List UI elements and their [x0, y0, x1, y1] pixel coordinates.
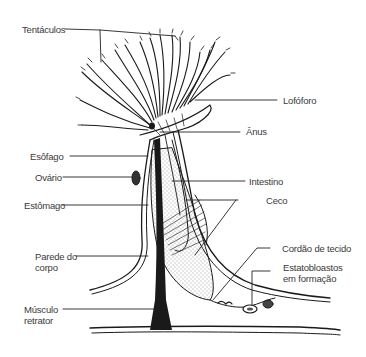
substrate-drawing: [90, 326, 340, 330]
label-parede-line1: Parede do: [35, 251, 77, 262]
label-musculo-line1: Músculo: [24, 304, 58, 315]
label-estomago: Estômago: [24, 200, 65, 211]
label-tentaculos: Tentáculos: [22, 24, 65, 35]
label-cordao-de-tecido: Cordão de tecido: [282, 243, 351, 254]
label-estato-line1: Estatobloastos: [283, 262, 343, 273]
label-parede-line2: corpo: [35, 262, 77, 273]
label-musculo-retrator: Músculo retrator: [24, 304, 58, 326]
label-esofago: Esôfago: [30, 151, 63, 162]
anus-drawing: [149, 123, 155, 130]
label-lofoforo: Lofóforo: [283, 95, 316, 106]
label-musculo-line2: retrator: [24, 315, 58, 326]
label-ceco: Ceco: [266, 195, 287, 206]
label-estatoblastos: Estatobloastos em formação: [283, 262, 343, 284]
tentacles-drawing: [76, 29, 235, 130]
label-estato-line2: em formação: [283, 273, 343, 284]
label-anus: Ânus: [246, 126, 267, 137]
label-parede-do-corpo: Parede do corpo: [35, 251, 77, 273]
ovary-drawing: [132, 171, 140, 185]
label-intestino: Intestino: [249, 176, 283, 187]
label-ovario: Ovário: [35, 172, 62, 183]
